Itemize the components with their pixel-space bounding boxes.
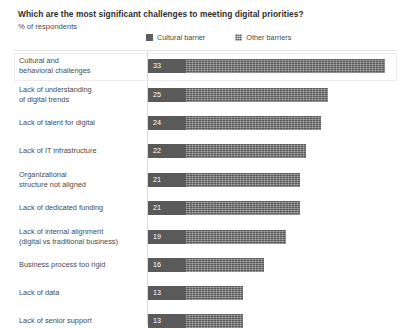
bar-segment-cultural-barrier[interactable]: 33 [148, 59, 186, 73]
bar-segment-other-barriers[interactable] [186, 314, 243, 328]
bar-value-label: 22 [153, 144, 161, 158]
bar-segment-cultural-barrier[interactable]: 13 [148, 314, 186, 328]
bar-row[interactable]: Lack of understanding of digital trends2… [0, 80, 403, 109]
chart-legend: Cultural barrier Other barriers [146, 33, 291, 42]
bar-row-label: Lack of dedicated funding [19, 203, 147, 213]
bar-row-label: Lack of internal alignment (digital vs t… [19, 227, 147, 246]
bar-segment-cultural-barrier[interactable]: 19 [148, 230, 186, 244]
bar-row[interactable]: Lack of talent for digital24 [0, 109, 403, 137]
bar-track: 13 [148, 286, 403, 300]
stacked-bar[interactable]: 24 [148, 116, 321, 130]
stacked-bar[interactable]: 21 [148, 201, 300, 215]
legend-label-cultural-barrier: Cultural barrier [157, 33, 205, 42]
bar-row-label: Lack of understanding of digital trends [19, 85, 147, 104]
chart-subtitle: % of respondents [18, 21, 395, 32]
stacked-bar[interactable]: 25 [148, 88, 328, 102]
bar-segment-other-barriers[interactable] [186, 144, 306, 158]
bar-row[interactable]: Lack of IT infrastructure22 [0, 137, 403, 165]
bar-track: 24 [148, 116, 403, 130]
bar-value-label: 25 [153, 88, 161, 102]
stacked-bar[interactable]: 13 [148, 314, 243, 328]
bar-value-label: 16 [153, 258, 161, 272]
bar-value-label: 33 [153, 59, 161, 73]
bar-segment-other-barriers[interactable] [186, 88, 328, 102]
legend-label-other-barriers: Other barriers [246, 33, 291, 42]
stacked-bar[interactable]: 21 [148, 173, 300, 187]
stacked-bar[interactable]: 22 [148, 144, 306, 158]
bar-row-label: Business process too rigid [19, 260, 147, 270]
bar-row[interactable]: Business process too rigid16 [0, 251, 403, 279]
bar-segment-other-barriers[interactable] [186, 230, 286, 244]
bar-segment-cultural-barrier[interactable]: 16 [148, 258, 186, 272]
bar-segment-cultural-barrier[interactable]: 13 [148, 286, 186, 300]
legend-item-cultural-barrier[interactable]: Cultural barrier [146, 33, 205, 42]
bar-value-label: 24 [153, 116, 161, 130]
legend-item-other-barriers[interactable]: Other barriers [235, 33, 291, 42]
bar-value-label: 21 [153, 201, 161, 215]
bar-row[interactable]: Lack of senior support13 [0, 307, 403, 329]
bar-segment-other-barriers[interactable] [186, 286, 243, 300]
bar-track: 22 [148, 144, 403, 158]
bar-row-label: Organizational structure not aligned [19, 170, 147, 189]
stacked-bar[interactable]: 16 [148, 258, 264, 272]
bar-segment-cultural-barrier[interactable]: 22 [148, 144, 186, 158]
plot-area: Cultural and behavioral challenges33Lack… [0, 50, 403, 329]
stacked-bar[interactable]: 33 [148, 59, 385, 73]
bar-value-label: 13 [153, 286, 161, 300]
bar-track: 21 [148, 173, 403, 187]
bar-segment-other-barriers[interactable] [186, 173, 300, 187]
bar-segment-other-barriers[interactable] [186, 201, 300, 215]
bar-track: 25 [148, 88, 403, 102]
bar-segment-other-barriers[interactable] [186, 59, 385, 73]
bar-row[interactable]: Lack of internal alignment (digital vs t… [0, 222, 403, 251]
bar-row[interactable]: Lack of data13 [0, 279, 403, 307]
bar-segment-cultural-barrier[interactable]: 24 [148, 116, 186, 130]
bar-row[interactable]: Organizational structure not aligned21 [0, 165, 403, 194]
bar-row-label: Lack of senior support [19, 316, 147, 326]
bar-row-label: Lack of data [19, 288, 147, 298]
other-barriers-swatch-icon [235, 34, 242, 41]
chart-container: Which are the most significant challenge… [0, 0, 403, 329]
bar-segment-cultural-barrier[interactable]: 21 [148, 173, 186, 187]
bar-value-label: 19 [153, 230, 161, 244]
bar-segment-other-barriers[interactable] [186, 116, 321, 130]
bar-row[interactable]: Cultural and behavioral challenges33 [0, 51, 403, 80]
bar-value-label: 13 [153, 314, 161, 328]
bar-track: 33 [148, 59, 403, 73]
bar-track: 16 [148, 258, 403, 272]
chart-header: Which are the most significant challenge… [18, 9, 395, 32]
cultural-barrier-swatch-icon [146, 34, 153, 41]
bar-row-label: Cultural and behavioral challenges [19, 56, 147, 75]
bar-segment-cultural-barrier[interactable]: 21 [148, 201, 186, 215]
stacked-bar[interactable]: 13 [148, 286, 243, 300]
bar-segment-other-barriers[interactable] [186, 258, 264, 272]
page-title: Which are the most significant challenge… [18, 9, 395, 20]
bar-track: 13 [148, 314, 403, 328]
bar-value-label: 21 [153, 173, 161, 187]
bar-rows: Cultural and behavioral challenges33Lack… [0, 51, 403, 329]
bar-track: 19 [148, 230, 403, 244]
bar-row-label: Lack of talent for digital [19, 118, 147, 128]
bar-track: 21 [148, 201, 403, 215]
bar-segment-cultural-barrier[interactable]: 25 [148, 88, 186, 102]
bar-row-label: Lack of IT infrastructure [19, 146, 147, 156]
stacked-bar[interactable]: 19 [148, 230, 286, 244]
bar-row[interactable]: Lack of dedicated funding21 [0, 194, 403, 222]
